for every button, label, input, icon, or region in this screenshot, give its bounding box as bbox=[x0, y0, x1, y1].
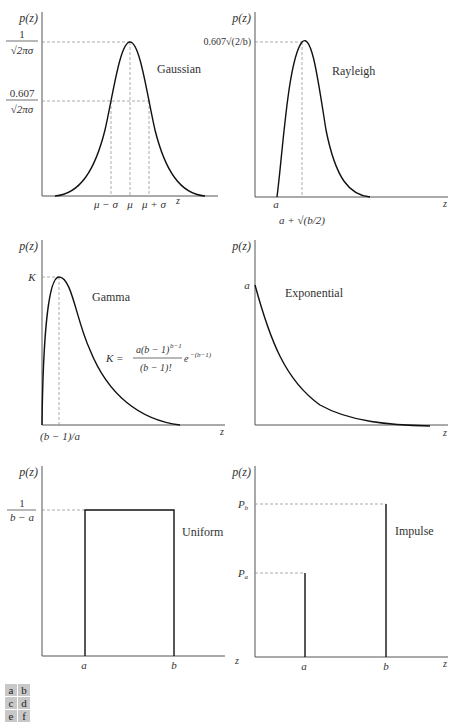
legend-cell: e bbox=[5, 710, 17, 722]
legend-cell: a bbox=[5, 684, 17, 696]
y-tick: 0.607√(2/b) bbox=[204, 36, 251, 48]
x-tick: b bbox=[171, 659, 177, 671]
x-axis-label: z bbox=[442, 427, 447, 438]
y-tick-num: 0.607 bbox=[10, 87, 35, 99]
exponential-curve bbox=[255, 285, 430, 426]
y-tick: K bbox=[27, 271, 36, 283]
y-tick: Pa bbox=[237, 567, 249, 581]
y-tick-den: √2πσ bbox=[11, 103, 34, 115]
legend-cell: b bbox=[18, 684, 30, 696]
panel-uniform: p(z) z 1 b − a a b Uniform bbox=[7, 465, 239, 671]
x-tick: μ bbox=[126, 198, 133, 210]
panel-legend: a b c d e f bbox=[5, 684, 30, 722]
x-axis-label: z bbox=[442, 658, 447, 669]
y-axis-label: p(z) bbox=[231, 239, 251, 253]
x-tick: μ + σ bbox=[141, 198, 166, 210]
panel-title: Rayleigh bbox=[332, 64, 375, 78]
svg-text:−(b−1): −(b−1) bbox=[190, 351, 212, 359]
pdf-figure: p(z) z 1 √2πσ 0.607 √2πσ μ − σ μ μ + σ G… bbox=[0, 0, 451, 728]
y-axis-label: p(z) bbox=[18, 465, 38, 479]
legend-cell: f bbox=[18, 710, 30, 722]
x-tick: (b − 1)/a bbox=[40, 430, 80, 443]
x-axis-label: z bbox=[234, 655, 239, 666]
panel-rayleigh: p(z) z 0.607√(2/b) a a + √(b/2) Rayleigh bbox=[204, 11, 448, 227]
x-axis-label: z bbox=[219, 426, 224, 437]
svg-text:e: e bbox=[184, 353, 189, 364]
panel-title: Impulse bbox=[395, 524, 434, 538]
panel-gaussian: p(z) z 1 √2πσ 0.607 √2πσ μ − σ μ μ + σ G… bbox=[6, 11, 218, 210]
y-tick-den: √2πσ bbox=[11, 44, 34, 56]
y-axis-label: p(z) bbox=[231, 465, 251, 479]
svg-text:a(b − 1): a(b − 1) bbox=[136, 344, 170, 356]
x-tick: a bbox=[81, 659, 87, 671]
svg-text:b−1: b−1 bbox=[170, 342, 182, 350]
legend-cell: d bbox=[18, 697, 30, 709]
y-axis-label: p(z) bbox=[231, 11, 251, 25]
x-axis-label: z bbox=[175, 195, 180, 206]
panel-exponential: p(z) z a Exponential bbox=[231, 239, 448, 438]
svg-text:K =: K = bbox=[105, 352, 124, 364]
x-axis-label: z bbox=[442, 198, 447, 209]
panel-impulse: p(z) z Pb Pa a b Impulse bbox=[231, 465, 448, 672]
y-tick: Pb bbox=[237, 498, 249, 512]
y-tick: a bbox=[244, 279, 250, 291]
svg-text:(b − 1)!: (b − 1)! bbox=[140, 362, 172, 374]
legend-cell: c bbox=[5, 697, 17, 709]
x-tick: a bbox=[301, 660, 307, 672]
panel-title: Uniform bbox=[182, 525, 224, 539]
x-tick: a bbox=[273, 198, 279, 210]
x-tick: b bbox=[383, 660, 389, 672]
panel-title: Exponential bbox=[285, 286, 344, 300]
panel-title: Gamma bbox=[92, 290, 131, 304]
panel-title: Gaussian bbox=[157, 62, 201, 76]
y-tick-num: 1 bbox=[19, 497, 25, 509]
panel-gamma: p(z) z K (b − 1)/a Gamma K = a(b − 1) b−… bbox=[18, 239, 225, 443]
y-axis-label: p(z) bbox=[18, 11, 38, 25]
y-tick-den: b − a bbox=[10, 511, 34, 523]
y-tick-num: 1 bbox=[19, 28, 25, 40]
x-tick: μ − σ bbox=[93, 198, 118, 210]
uniform-box bbox=[85, 510, 174, 656]
y-axis-label: p(z) bbox=[18, 239, 38, 253]
x-tick: a + √(b/2) bbox=[279, 214, 325, 227]
gamma-k-formula: K = a(b − 1) b−1 (b − 1)! e −(b−1) bbox=[105, 342, 212, 374]
